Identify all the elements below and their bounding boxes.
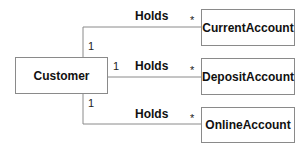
class-name: Customer (33, 69, 89, 83)
class-name: DepositAccount (202, 70, 294, 84)
association-label: Holds (135, 60, 168, 72)
class-box-current-account: CurrentAccount (201, 9, 295, 46)
association-line-current (83, 27, 201, 57)
class-box-customer: Customer (15, 57, 108, 94)
target-multiplicity: * (190, 15, 194, 26)
source-multiplicity: 1 (88, 41, 94, 52)
target-multiplicity: * (190, 65, 194, 76)
class-box-deposit-account: DepositAccount (201, 58, 295, 95)
source-multiplicity: 1 (113, 61, 119, 72)
class-name: CurrentAccount (202, 21, 293, 35)
class-box-online-account: OnlineAccount (201, 107, 295, 143)
source-multiplicity: 1 (88, 98, 94, 109)
association-label: Holds (135, 10, 168, 22)
association-label: Holds (135, 108, 168, 120)
class-name: OnlineAccount (205, 118, 290, 132)
target-multiplicity: * (190, 113, 194, 124)
